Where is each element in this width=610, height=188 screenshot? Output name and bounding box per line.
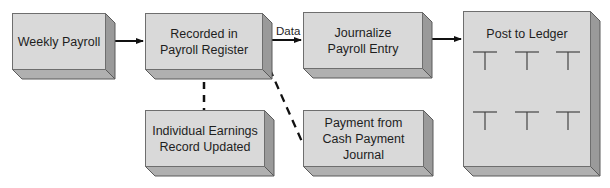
data-edge-label: Data <box>276 25 300 37</box>
box-journalize: Journalize Payroll Entry <box>303 12 433 79</box>
box-ledger: Post to Ledger <box>463 11 601 177</box>
box-earnings-record: Individual Earnings Record Updated <box>145 110 275 177</box>
t-account-icon <box>556 52 580 70</box>
t-account-icon <box>473 52 497 70</box>
box-label: Weekly Payroll <box>18 34 100 50</box>
t-account-icon <box>473 112 497 130</box>
box-label: Journalize Payroll Entry <box>328 25 399 57</box>
box-payroll-register: Recorded in Payroll Register <box>145 13 273 80</box>
box-cash-payment: Payment from Cash Payment Journal <box>303 110 434 177</box>
t-account-icon <box>515 112 539 130</box>
t-account-icon <box>515 52 539 70</box>
box-label: Individual Earnings Record Updated <box>152 123 258 155</box>
box-label: Recorded in Payroll Register <box>160 26 248 58</box>
box-label: Payment from Cash Payment Journal <box>323 115 405 163</box>
t-accounts <box>463 11 591 167</box>
t-account-icon <box>556 112 580 130</box>
box-weekly-payroll: Weekly Payroll <box>12 13 116 80</box>
